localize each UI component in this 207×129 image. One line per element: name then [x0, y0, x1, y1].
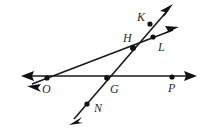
point-dot-H [130, 45, 136, 51]
point-dot-K [147, 21, 152, 26]
line-ohl-upper-right-arrow-icon [164, 26, 179, 34]
point-label-O: O [42, 82, 51, 96]
point-dot-P [169, 74, 174, 79]
point-label-N: N [93, 101, 103, 115]
line-nghk-lower-left-arrow-icon [69, 117, 83, 125]
point-label-G: G [110, 82, 119, 96]
point-label-K: K [136, 10, 146, 24]
point-dot-N [84, 101, 89, 106]
point-label-L: L [157, 40, 165, 54]
geometry-diagram: O G H K L N P [0, 0, 207, 129]
point-dot-L [150, 34, 155, 39]
line-ohl-lower-left-arrow-icon [27, 84, 41, 92]
line-nghk-upper-right-arrow-icon [160, 4, 173, 17]
point-label-P: P [167, 81, 176, 95]
point-dot-G [104, 75, 110, 81]
geometry-canvas: O G H K L N P [0, 0, 207, 129]
point-label-H: H [122, 31, 133, 45]
point-dot-O [44, 75, 49, 80]
